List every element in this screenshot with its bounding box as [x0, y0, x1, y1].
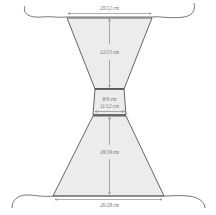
- upper-length-label: 12/15 cm: [100, 49, 119, 55]
- waist-band: [93, 89, 126, 115]
- garment-schematic: 20/22 cm 12/15 cm 8/9 cm 11/12 cm 18/19 …: [0, 0, 216, 215]
- bottom-width-label: 26/28 cm: [100, 202, 119, 208]
- lower-panel: [53, 116, 164, 196]
- lower-length-label: 18/19 cm: [100, 149, 119, 155]
- top-width-label: 20/22 cm: [100, 5, 119, 11]
- waist-height-label: 8/9 cm: [103, 96, 117, 102]
- waist-width-label: 11/12 cm: [100, 103, 119, 109]
